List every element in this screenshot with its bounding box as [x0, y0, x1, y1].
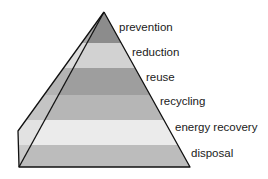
- level-label-reuse: reuse: [146, 72, 175, 84]
- level-label-disposal: disposal: [191, 148, 233, 160]
- pyramid-front-face: [19, 12, 190, 167]
- pyramid-band-disposal: [19, 145, 190, 167]
- level-label-recycling: recycling: [160, 96, 205, 108]
- level-label-reduction: reduction: [132, 47, 179, 59]
- pyramid-band-recycling: [45, 95, 164, 120]
- level-label-energy-recovery: energy recovery: [175, 122, 257, 134]
- level-label-prevention: prevention: [119, 22, 173, 34]
- pyramid-band-energy-recovery: [31, 120, 178, 145]
- pyramid-band-reuse: [58, 68, 150, 95]
